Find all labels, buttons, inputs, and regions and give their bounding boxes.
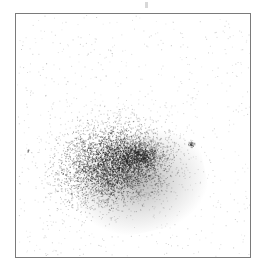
top-tick-mark: [145, 2, 148, 8]
image-frame: [15, 13, 251, 258]
density-scatter: [16, 14, 251, 258]
